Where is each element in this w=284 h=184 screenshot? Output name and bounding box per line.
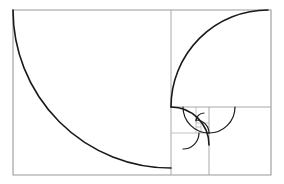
spiral-arc-1: [13, 10, 171, 168]
outer-rectangle: [13, 10, 271, 175]
fibonacci-spiral-canvas: [0, 0, 284, 184]
spiral-arc-4: [209, 107, 235, 133]
subdivision-grid: [13, 10, 271, 175]
spiral-arc-2: [171, 10, 268, 107]
fibonacci-spiral-figure: Fibonacci golden spiral: [0, 0, 284, 184]
spiral-arc-6: [183, 133, 199, 149]
golden-spiral: [13, 10, 268, 168]
